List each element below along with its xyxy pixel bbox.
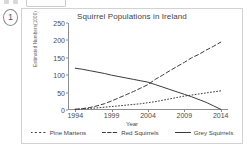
y-tick-label: 150 bbox=[53, 54, 65, 61]
y-tick-label: 50 bbox=[57, 89, 65, 96]
x-tick-label: 1999 bbox=[104, 112, 120, 119]
x-tick-mark bbox=[184, 110, 185, 112]
x-tick-label: 1994 bbox=[67, 112, 83, 119]
y-tick-label: 0 bbox=[61, 107, 65, 114]
legend-label: Red Squirrels bbox=[121, 129, 159, 136]
series-line bbox=[75, 68, 220, 109]
toolbar-strip bbox=[0, 0, 247, 7]
x-tick-mark bbox=[112, 110, 113, 112]
chart-panel: Squirrel Populations in Ireland Estimate… bbox=[21, 8, 243, 144]
x-axis-label: Year bbox=[22, 121, 242, 127]
toolbar-icon-a[interactable] bbox=[4, 0, 9, 4]
question-number: 1 bbox=[3, 9, 18, 26]
y-tick-label: 250 bbox=[53, 20, 65, 27]
legend-label: Grey Squirrels bbox=[194, 129, 234, 136]
series-lines bbox=[68, 23, 228, 110]
legend-item[interactable]: Pine Martens bbox=[31, 129, 86, 136]
x-tick-mark bbox=[75, 110, 76, 112]
plot-area: 050100150200250 19941999200420092014 bbox=[68, 23, 228, 110]
y-tick-label: 100 bbox=[53, 72, 65, 79]
legend-label: Pine Martens bbox=[50, 129, 86, 136]
x-tick-mark bbox=[148, 110, 149, 112]
x-tick-label: 2004 bbox=[140, 112, 156, 119]
legend-item[interactable]: Grey Squirrels bbox=[175, 129, 234, 136]
x-tick-mark bbox=[221, 110, 222, 112]
y-axis-label: Estimated Numbers(1000) bbox=[33, 11, 38, 67]
chart-legend: Pine MartensRed SquirrelsGrey Squirrels bbox=[22, 129, 242, 136]
legend-item[interactable]: Red Squirrels bbox=[102, 129, 159, 136]
x-tick-label: 2014 bbox=[213, 112, 229, 119]
toolbar-input-field[interactable] bbox=[26, 0, 66, 7]
toolbar-icon-b[interactable] bbox=[13, 0, 18, 4]
legend-swatch-icon bbox=[175, 130, 191, 135]
x-tick-label: 2009 bbox=[177, 112, 193, 119]
legend-swatch-icon bbox=[31, 130, 47, 135]
legend-swatch-icon bbox=[102, 130, 118, 135]
y-tick-label: 200 bbox=[53, 37, 65, 44]
